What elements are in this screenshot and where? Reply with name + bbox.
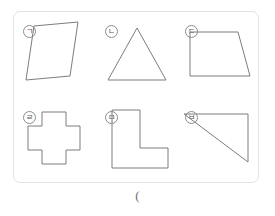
answer-parenthesis: ( bbox=[0, 188, 275, 204]
figure-cell-6: ㅂ bbox=[176, 98, 258, 184]
shape-right-triangle-icon bbox=[176, 98, 258, 184]
shape-points-4 bbox=[28, 112, 80, 164]
figure-cell-2: ㄴ bbox=[96, 12, 178, 98]
shape-l-shape-icon bbox=[96, 98, 178, 184]
shape-points-2 bbox=[108, 28, 166, 80]
shape-points-3 bbox=[190, 32, 250, 76]
shape-points-1 bbox=[26, 22, 78, 80]
shape-points-6 bbox=[184, 114, 248, 162]
figure-cell-1: ㄱ bbox=[14, 12, 96, 98]
shape-cross-icon bbox=[14, 98, 96, 184]
figure-cell-5: ㅁ bbox=[96, 98, 178, 184]
figure-cell-4: ㄹ bbox=[14, 98, 96, 184]
shape-trapezoid-icon bbox=[176, 12, 258, 98]
shape-parallelogram-icon bbox=[14, 12, 96, 98]
figure-cell-3: ㄷ bbox=[176, 12, 258, 98]
shape-points-5 bbox=[112, 110, 168, 168]
shape-triangle-icon bbox=[96, 12, 178, 98]
worksheet-panel: ㄱ ㄴ ㄷ ㄹ ㅁ ㅂ bbox=[13, 11, 259, 183]
